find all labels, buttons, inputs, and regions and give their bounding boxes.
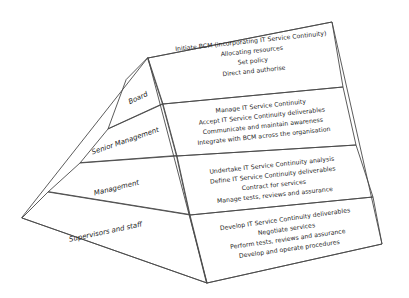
- tier-4-activities: Develop IT Service Continuity deliverabl…: [219, 206, 354, 262]
- tier-2-activities: Manage IT Service Continuity Accept IT S…: [194, 95, 331, 147]
- tier-1-activities: Initiate BCM (incorporating IT Service C…: [175, 29, 330, 82]
- tier-3-activities: Undertake IT Service Continuity analysis…: [209, 155, 338, 206]
- tier-1-activity-4: Direct and authorise: [222, 64, 286, 78]
- pyramid-diagram: Initiate BCM (incorporating IT Service C…: [0, 0, 409, 298]
- left-face: [22, 58, 207, 283]
- pyramid-svg: Initiate BCM (incorporating IT Service C…: [0, 0, 409, 298]
